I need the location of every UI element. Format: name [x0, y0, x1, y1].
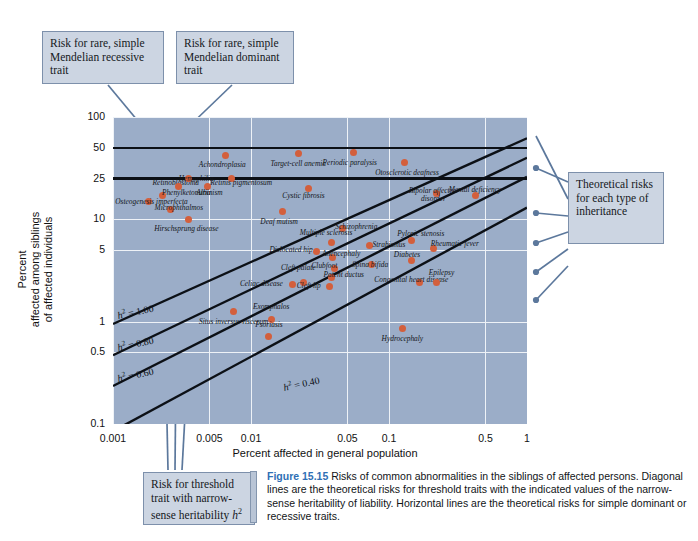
- callout-threshold-line1: Risk for threshold trait with narrow-: [151, 478, 234, 504]
- data-point-label: Pyloric stenosis: [397, 230, 444, 238]
- data-point-label: Multiple sclerosis: [300, 229, 352, 237]
- callout-recessive-trait: Risk for rare, simple Mendelian recessiv…: [42, 31, 164, 84]
- callout-threshold-line2: sense heritability: [151, 509, 232, 521]
- y-tick-label: 0.1: [71, 417, 105, 429]
- heritability-superscript: 2: [287, 379, 292, 388]
- callout-dominant-trait: Risk for rare, simple Mendelian dominant…: [176, 31, 294, 84]
- heritability-superscript: 2: [121, 339, 126, 348]
- y-axis-title: Percent affected among siblings of affec…: [16, 175, 55, 365]
- data-point-label: Otosclerotic deafness: [375, 169, 439, 177]
- x-axis-title: Percent affected in general population: [180, 447, 470, 459]
- y-tick-label: 0.5: [71, 345, 105, 357]
- data-point[interactable]: [433, 279, 440, 286]
- data-point-label: Periodic paralysis: [323, 159, 377, 167]
- data-point-label: Achondroplasia: [199, 161, 246, 169]
- figure-number: Figure 15.15: [267, 470, 328, 482]
- data-point-label: Patent ductus: [324, 271, 364, 279]
- figure-root: Risk for rare, simple Mendelian recessiv…: [0, 0, 698, 541]
- data-point-label: Strabismus: [373, 241, 406, 249]
- data-point-label: Anencephaly: [322, 250, 360, 258]
- data-point-label: Cystic fibrosis: [282, 192, 324, 200]
- data-point-label: Diabetes: [394, 251, 420, 259]
- data-point-label: Hirschsprung disease: [154, 225, 218, 233]
- x-tick-label: 0.005: [189, 432, 229, 444]
- data-point-label: Retinis pigmentosum: [210, 179, 272, 187]
- plot-area: h2 = 1.00h2 = 0.80h2 = 0.60h2 = 0.40 Ach…: [113, 117, 527, 424]
- data-point-label: Cleft lip: [297, 282, 321, 290]
- data-point[interactable]: [328, 239, 335, 246]
- data-point[interactable]: [279, 208, 286, 215]
- callout-threshold-trait: Risk for threshold trait with narrow-sen…: [143, 472, 255, 525]
- data-point[interactable]: [326, 283, 333, 290]
- data-point-label: Rheumatic fever: [431, 240, 479, 248]
- caption-color-bar: [250, 471, 257, 523]
- data-point-label: Hydrocephaly: [382, 335, 424, 343]
- data-point[interactable]: [295, 150, 302, 157]
- y-axis-title-line2: affected among siblings: [29, 212, 41, 327]
- data-point-label: Deaf mutism: [260, 218, 298, 226]
- callout-threshold-superscript: 2: [238, 507, 242, 516]
- data-point[interactable]: [185, 216, 192, 223]
- data-point-label: Spina bifida: [352, 261, 388, 269]
- y-tick-label: 25: [71, 172, 105, 184]
- y-axis-title-line1: Percent: [16, 251, 28, 289]
- data-point-label: Dislocated hip: [269, 246, 312, 254]
- x-tick-label: 0.05: [327, 432, 367, 444]
- x-tick-label: 0.1: [369, 432, 409, 444]
- data-point-label: Mental deficiency: [449, 186, 502, 194]
- data-point[interactable]: [313, 248, 320, 255]
- y-axis-title-line3: of affected individuals: [42, 217, 54, 323]
- data-point-label: Target-cell anemia: [271, 160, 327, 168]
- x-tick-label: 0.001: [93, 432, 133, 444]
- caption-text: Figure 15.15 Risks of common abnormaliti…: [267, 470, 695, 524]
- x-tick-label: 1: [507, 432, 547, 444]
- figure-caption: Figure 15.15 Risks of common abnormaliti…: [250, 470, 695, 536]
- data-point[interactable]: [222, 152, 229, 159]
- data-point-label: Exomphalos: [253, 303, 290, 311]
- y-tick-label: 10: [71, 212, 105, 224]
- data-point[interactable]: [350, 149, 357, 156]
- data-point-label: Microphthalmos: [155, 204, 204, 212]
- data-point-label: Epilepsy: [429, 269, 454, 277]
- x-tick-label: 0.01: [231, 432, 271, 444]
- data-point-label: Cleft palate: [281, 264, 316, 272]
- caption-body: Risks of common abnormalities in the sib…: [267, 470, 686, 522]
- x-tick-label: 0.5: [465, 432, 505, 444]
- y-tick-label: 5: [71, 243, 105, 255]
- data-point-label: Psoriasis: [255, 321, 283, 329]
- data-point-label: Celiac disease: [240, 280, 283, 288]
- y-tick-label: 50: [71, 141, 105, 153]
- heritability-superscript: 2: [121, 308, 126, 317]
- heritability-superscript: 2: [121, 370, 126, 379]
- y-tick-label: 1: [71, 315, 105, 327]
- y-tick-label: 100: [71, 110, 105, 122]
- callout-theoretical-risks: Theoretical risks for each type of inher…: [568, 172, 664, 244]
